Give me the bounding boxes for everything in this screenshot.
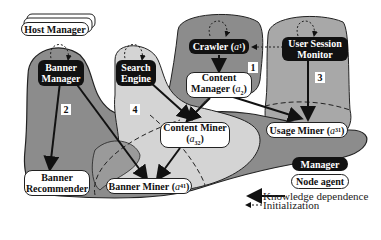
user-session-monitor-node: User Session Monitor	[282, 37, 348, 61]
legend-node-agent: Node agent	[291, 174, 349, 189]
banner-miner-node: Banner Miner (a41)	[106, 178, 192, 194]
region-number-3: 3	[315, 72, 325, 83]
search-engine-node: Search Engine	[116, 60, 156, 86]
crawler-node: Crawler (a1)	[189, 39, 249, 54]
usage-miner-node: Usage Miner (a31)	[266, 122, 348, 138]
region-number-4: 4	[130, 104, 140, 115]
legend-initialization: Initialization	[263, 200, 319, 210]
region-number-1: 1	[248, 62, 258, 73]
banner-manager-node: Banner Manager	[38, 60, 84, 86]
content-manager-node: Content Manager (a2)	[186, 72, 252, 98]
host-manager-node: Host Manager	[21, 22, 89, 36]
banner-recommender-node: Banner Recommender	[24, 170, 90, 196]
content-miner-node: Content Miner (a32)	[160, 122, 230, 148]
legend-manager: Manager	[292, 157, 348, 171]
region-number-2: 2	[61, 104, 71, 115]
